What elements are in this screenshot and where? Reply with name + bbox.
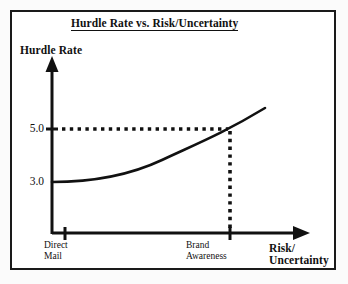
hurdle-rate-curve	[52, 108, 265, 182]
chart-title: Hurdle Rate vs. Risk/Uncertainty	[71, 17, 238, 31]
x-tick-brand-line1: Brand	[186, 240, 209, 250]
x-tick-direct-mail-line1: Direct	[44, 240, 68, 250]
x-tick-direct-mail-line2: Mail	[44, 251, 62, 261]
y-axis-tick-label-3: 3.0	[20, 175, 44, 187]
x-tick-brand-line2: Awareness	[186, 251, 227, 261]
x-axis	[52, 226, 310, 240]
y-axis-tick-label-5: 5.0	[20, 122, 44, 134]
x-axis-title-line2: Uncertainty	[269, 254, 329, 266]
x-axis-title-line1: Risk/	[269, 242, 295, 254]
x-axis-tick-label-direct-mail: DirectMail	[44, 240, 68, 261]
y-axis	[46, 56, 59, 234]
x-axis-tick-label-brand-awareness: BrandAwareness	[186, 240, 227, 261]
x-axis-title: Risk/Uncertainty	[269, 242, 329, 267]
y-axis-title: Hurdle Rate	[20, 44, 82, 56]
chart-page: Hurdle Rate vs. Risk/Uncertainty Hurdle …	[0, 0, 348, 284]
